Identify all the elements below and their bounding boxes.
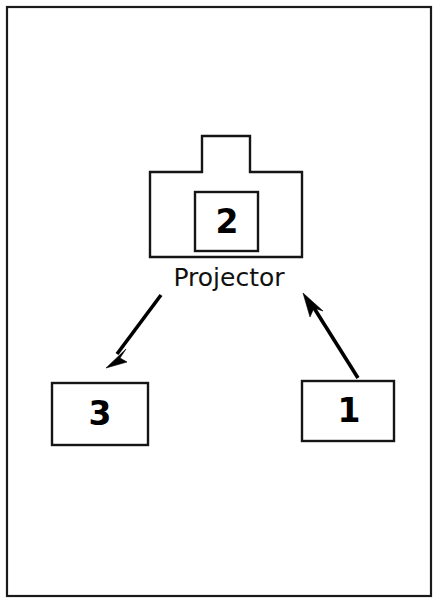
diagram-canvas: 2 Projector 3 1 — [0, 0, 441, 608]
page-border — [7, 7, 431, 596]
box-1-label: 1 — [338, 391, 361, 430]
box-3-label: 3 — [89, 394, 112, 433]
box-1: 1 — [302, 381, 394, 441]
projector-caption: Projector — [173, 263, 285, 292]
projector-number-label: 2 — [216, 202, 239, 241]
diagram-svg: 2 Projector 3 1 — [0, 0, 441, 608]
box-3: 3 — [52, 383, 148, 445]
